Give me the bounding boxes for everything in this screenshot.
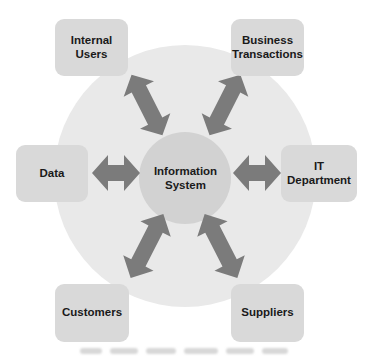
node-business-transactions: Business Transactions <box>231 19 304 76</box>
node-suppliers: Suppliers <box>231 284 304 342</box>
node-label: Data <box>40 167 65 181</box>
node-customers: Customers <box>55 284 129 342</box>
node-label: Suppliers <box>241 306 293 320</box>
information-system-diagram: Internal Users Business Transactions Dat… <box>0 0 368 357</box>
node-label: Internal Users <box>55 34 128 62</box>
node-label: IT Department <box>281 160 357 188</box>
center-label-line2: System <box>165 178 206 192</box>
caption-illegible <box>80 346 300 356</box>
node-label: Customers <box>62 306 122 320</box>
center-label-line1: Information <box>154 164 217 178</box>
node-it-department: IT Department <box>281 145 357 202</box>
node-label-line1: Business <box>242 34 293 48</box>
node-data: Data <box>16 145 88 202</box>
node-label-line2: Transactions <box>232 48 303 62</box>
center-node-information-system: Information System <box>139 134 232 222</box>
node-internal-users: Internal Users <box>55 19 128 76</box>
